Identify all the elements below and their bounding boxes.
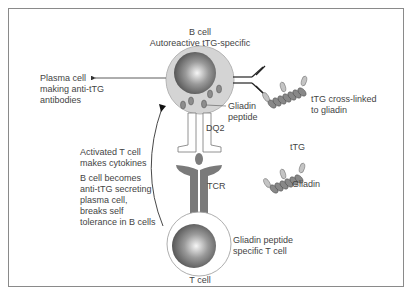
t-cell-specificity-label: Gliadin peptide specific T cell [233, 235, 293, 257]
b-cell-nucleus [174, 52, 216, 94]
dq2-label: DQ2 [206, 123, 225, 134]
plasma-cell-label: Plasma cell making anti-tTG antibodies [40, 73, 104, 106]
peptide-presented-icon [195, 153, 203, 165]
b-cell [166, 46, 234, 114]
b-cell-becomes-label: B cell becomes anti-tTG secreting plasma… [80, 173, 156, 228]
gliadin-peptide-label: Gliadin peptide [228, 101, 258, 123]
b-cell-subtitle: Autoreactive tTG-specific [140, 38, 260, 49]
activated-t-cell-label: Activated T cell makes cytokines [80, 147, 147, 169]
t-cell-nucleus [172, 224, 216, 268]
ttg-crosslinked-label: tTG cross-linked to gliadin [311, 94, 377, 116]
t-cell-title: T cell [170, 275, 230, 286]
ttg-crosslinked-icon [261, 76, 307, 110]
bcr-antibody-icon [233, 66, 265, 95]
gliadin-label: Gliadin [292, 179, 320, 190]
tcr-label: TCR [207, 181, 226, 192]
ttg-label: tTG [290, 142, 305, 153]
b-cell-title: B cell [150, 27, 250, 38]
t-cell [167, 212, 231, 276]
